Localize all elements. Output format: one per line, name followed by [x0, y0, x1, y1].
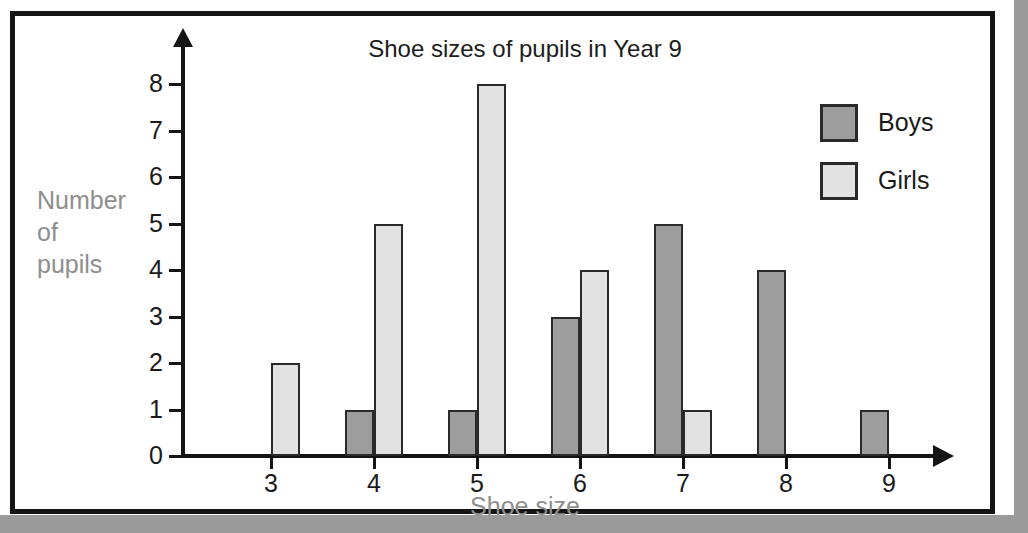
bar-boys-size-8	[757, 270, 786, 456]
legend-label-girls: Girls	[878, 165, 929, 195]
y-axis-tick-label: 8	[129, 71, 163, 96]
y-axis-tick	[169, 455, 182, 458]
y-axis-tick-label: 3	[129, 304, 163, 329]
x-axis-tick	[682, 456, 685, 469]
bar-girls-size-4	[374, 224, 403, 457]
y-axis-tick-label: 7	[129, 118, 163, 143]
y-axis-tick	[169, 83, 182, 86]
bar-boys-size-6	[551, 317, 580, 457]
figure-frame: Shoe sizes of pupils in Year 9 Number of…	[10, 11, 995, 514]
y-axis-arrow-icon	[173, 28, 193, 47]
y-axis-tick	[169, 362, 182, 365]
bar-girls-size-6	[580, 270, 609, 456]
legend-label-boys: Boys	[878, 107, 934, 137]
bar-boys-size-9	[860, 410, 889, 457]
y-axis-tick-label: 0	[129, 443, 163, 468]
bar-girls-size-3	[271, 363, 300, 456]
x-axis-tick	[270, 456, 273, 469]
x-axis-tick-label: 9	[867, 471, 911, 496]
bar-girls-size-7	[683, 410, 712, 457]
bar-boys-size-5	[448, 410, 477, 457]
y-axis-tick	[169, 316, 182, 319]
x-axis-tick-label: 8	[764, 471, 808, 496]
x-axis-tick-label: 7	[661, 471, 705, 496]
legend-swatch-boys	[820, 104, 858, 142]
x-axis-tick-label: 4	[352, 471, 396, 496]
x-axis-tick	[476, 456, 479, 469]
y-axis-tick-label: 2	[129, 350, 163, 375]
x-axis-tick	[888, 456, 891, 469]
x-axis-arrow-icon	[933, 445, 954, 467]
y-axis-tick	[169, 130, 182, 133]
y-axis-line	[181, 44, 185, 458]
y-axis-tick	[169, 269, 182, 272]
y-axis-tick-label: 5	[129, 211, 163, 236]
chart-plot-area: Shoe sizes of pupils in Year 9 Number of…	[15, 16, 990, 509]
bar-boys-size-4	[345, 410, 374, 457]
y-axis-tick-label: 6	[129, 164, 163, 189]
bar-girls-size-5	[477, 84, 506, 456]
legend-swatch-girls	[820, 162, 858, 200]
x-axis-tick	[579, 456, 582, 469]
page-backdrop-right	[1014, 0, 1028, 533]
x-axis-tick-label: 5	[455, 471, 499, 496]
y-axis-tick	[169, 176, 182, 179]
x-axis-label: Shoe size	[395, 494, 655, 519]
x-axis-tick-label: 3	[249, 471, 293, 496]
y-axis-tick-label: 4	[129, 257, 163, 282]
x-axis-tick	[785, 456, 788, 469]
bar-boys-size-7	[654, 224, 683, 457]
y-axis-tick	[169, 409, 182, 412]
x-axis-tick	[373, 456, 376, 469]
page-background: Shoe sizes of pupils in Year 9 Number of…	[0, 0, 1028, 533]
page-backdrop-top	[0, 0, 1014, 11]
x-axis-tick-label: 6	[558, 471, 602, 496]
y-axis-tick	[169, 223, 182, 226]
chart-title: Shoe sizes of pupils in Year 9	[265, 36, 785, 62]
y-axis-tick-label: 1	[129, 397, 163, 422]
